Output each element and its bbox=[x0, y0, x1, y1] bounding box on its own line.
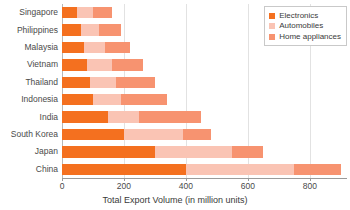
bar-segment[interactable] bbox=[108, 111, 139, 122]
x-tick-label: 600 bbox=[241, 182, 255, 191]
bar-segment[interactable] bbox=[124, 129, 183, 140]
bar-segment[interactable] bbox=[62, 129, 124, 140]
bar-row[interactable] bbox=[62, 111, 347, 122]
x-tick-label: 400 bbox=[179, 182, 193, 191]
y-axis-label: Vietnam bbox=[27, 60, 58, 69]
y-axis-label: India bbox=[40, 113, 58, 122]
y-axis-label: Singapore bbox=[19, 8, 58, 17]
y-axis-label: China bbox=[36, 165, 58, 174]
y-axis-label: Malaysia bbox=[24, 43, 58, 52]
y-axis-label: Japan bbox=[35, 147, 58, 156]
legend-item[interactable]: Home appliances bbox=[269, 32, 341, 42]
bar-segment[interactable] bbox=[105, 42, 130, 53]
legend-swatch-icon bbox=[269, 34, 275, 40]
bar-segment[interactable] bbox=[62, 164, 186, 175]
legend-swatch-icon bbox=[269, 13, 275, 19]
bar-segment[interactable] bbox=[84, 42, 106, 53]
bar-segment[interactable] bbox=[99, 24, 121, 35]
legend-swatch-icon bbox=[269, 23, 275, 29]
legend-item[interactable]: Automobiles bbox=[269, 21, 341, 31]
legend-label: Electronics bbox=[279, 12, 318, 20]
y-axis-category-labels: SingaporePhilippinesMalaysiaVietnamThail… bbox=[0, 4, 58, 178]
bar-segment[interactable] bbox=[62, 59, 87, 70]
bar-row[interactable] bbox=[62, 59, 347, 70]
chart-legend: ElectronicsAutomobilesHome appliances bbox=[264, 6, 347, 46]
bar-segment[interactable] bbox=[155, 146, 232, 157]
bar-segment[interactable] bbox=[62, 24, 81, 35]
y-axis-label: South Korea bbox=[11, 130, 58, 139]
bar-segment[interactable] bbox=[232, 146, 263, 157]
bar-segment[interactable] bbox=[62, 94, 93, 105]
bar-segment[interactable] bbox=[90, 77, 116, 88]
x-axis-title: Total Export Volume (in million units) bbox=[0, 195, 350, 205]
bar-segment[interactable] bbox=[77, 7, 92, 18]
bar-segment[interactable] bbox=[116, 77, 155, 88]
bar-segment[interactable] bbox=[183, 129, 211, 140]
bar-segment[interactable] bbox=[62, 42, 84, 53]
legend-label: Home appliances bbox=[279, 33, 341, 41]
bar-segment[interactable] bbox=[62, 7, 77, 18]
bar-segment[interactable] bbox=[62, 146, 155, 157]
bar-row[interactable] bbox=[62, 146, 347, 157]
bar-segment[interactable] bbox=[186, 164, 294, 175]
bar-segment[interactable] bbox=[62, 111, 108, 122]
stacked-bar-chart: SingaporePhilippinesMalaysiaVietnamThail… bbox=[0, 0, 350, 210]
bar-row[interactable] bbox=[62, 77, 347, 88]
bar-segment[interactable] bbox=[87, 59, 112, 70]
bar-row[interactable] bbox=[62, 94, 347, 105]
x-tick-label: 200 bbox=[117, 182, 131, 191]
bar-segment[interactable] bbox=[139, 111, 201, 122]
x-tick-label: 0 bbox=[60, 182, 65, 191]
bar-segment[interactable] bbox=[81, 24, 100, 35]
bar-segment[interactable] bbox=[112, 59, 143, 70]
bar-row[interactable] bbox=[62, 164, 347, 175]
bar-row[interactable] bbox=[62, 129, 347, 140]
bar-segment[interactable] bbox=[294, 164, 340, 175]
legend-label: Automobiles bbox=[279, 22, 323, 30]
bar-segment[interactable] bbox=[93, 94, 121, 105]
bar-segment[interactable] bbox=[62, 77, 90, 88]
y-axis-label: Thailand bbox=[25, 78, 58, 87]
y-axis-label: Philippines bbox=[17, 26, 58, 35]
bar-segment[interactable] bbox=[93, 7, 112, 18]
x-axis-line bbox=[62, 178, 347, 179]
x-tick-label: 800 bbox=[303, 182, 317, 191]
y-axis-label: Indonesia bbox=[21, 95, 58, 104]
legend-item[interactable]: Electronics bbox=[269, 11, 341, 21]
bar-segment[interactable] bbox=[121, 94, 167, 105]
